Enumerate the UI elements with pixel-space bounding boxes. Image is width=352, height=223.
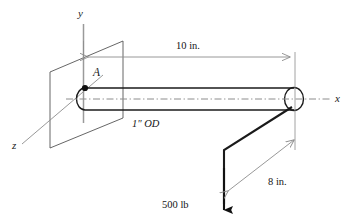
engineering-diagram-figure: y x z A 1" OD 10 in. 8 in. 500 lb — [0, 0, 352, 223]
point-a-marker — [82, 85, 88, 91]
diameter-label: 1" OD — [132, 119, 159, 130]
z-axis-label: z — [12, 140, 16, 151]
force-label: 500 lb — [162, 200, 189, 211]
lever-arm — [224, 107, 292, 204]
diagram-canvas — [0, 0, 352, 223]
x-axis-label: x — [335, 93, 340, 104]
point-a-label: A — [93, 67, 100, 79]
arm-dimension-label: 8 in. — [268, 177, 287, 188]
y-axis-label: y — [78, 8, 83, 19]
length-dimension-label: 10 in. — [176, 41, 200, 52]
